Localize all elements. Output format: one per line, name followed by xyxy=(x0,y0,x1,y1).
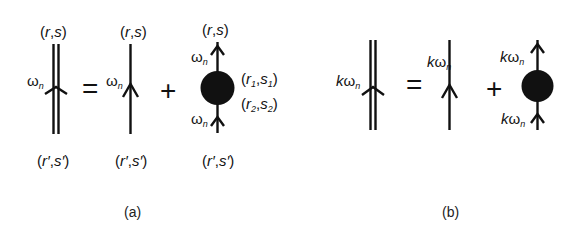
single-line-propagator-a: (r,s) ωn (r′,s′) xyxy=(106,23,147,169)
top-label-a-term1: (r,s) xyxy=(120,23,147,40)
top-label-a-term2: (r,s) xyxy=(202,21,229,38)
blob-vertex-a: (r,s) ωn ωn (r1,s1) (r2,s2) (r′,s′) xyxy=(191,21,278,169)
vertex1-label: (r1,s1) xyxy=(241,70,278,89)
double-line-propagator-a: (r,s) ωn (r′,s′) xyxy=(27,23,69,169)
caption-b: (b) xyxy=(442,204,459,220)
plus-sign-b: + xyxy=(486,73,502,104)
freq-label-b-term1: kωn xyxy=(427,53,451,72)
bottom-label-a-term1: (r′,s′) xyxy=(115,152,147,169)
single-line-propagator-b: kωn xyxy=(427,40,457,130)
arrow-up-icon xyxy=(45,87,67,94)
freq-label-a-term1: ωn xyxy=(106,72,123,91)
upper-freq-label-b: kωn xyxy=(500,48,524,67)
bottom-label-a-lhs: (r′,s′) xyxy=(37,152,69,169)
freq-label-b-lhs: kωn xyxy=(336,72,360,91)
double-line-propagator-b: kωn xyxy=(336,40,384,130)
arrow-up-icon xyxy=(362,87,384,95)
lower-freq-label-b: kωn xyxy=(501,110,525,129)
self-energy-blob xyxy=(201,71,235,105)
upper-freq-label-a: ωn xyxy=(191,48,208,67)
equals-sign-b: = xyxy=(406,69,422,100)
caption-a: (a) xyxy=(124,204,141,220)
vertex2-label: (r2,s2) xyxy=(241,95,278,114)
lower-freq-label-a: ωn xyxy=(191,110,208,129)
freq-label-a-lhs: ωn xyxy=(27,72,44,91)
self-energy-blob xyxy=(522,70,554,102)
top-label-a-lhs: (r,s) xyxy=(40,23,67,40)
panel-b: kωn = kωn + kωn kωn (b) xyxy=(336,40,554,220)
blob-vertex-b: kωn kωn xyxy=(500,40,554,130)
bottom-label-a-term2: (r′,s′) xyxy=(202,152,234,169)
plus-sign-a: + xyxy=(160,75,176,106)
feynman-diagram-figure: (r,s) ωn (r′,s′) = (r,s) ωn (r′,s′) + (r… xyxy=(0,0,579,234)
equals-sign-a: = xyxy=(82,73,98,104)
panel-a: (r,s) ωn (r′,s′) = (r,s) ωn (r′,s′) + (r… xyxy=(27,21,278,220)
